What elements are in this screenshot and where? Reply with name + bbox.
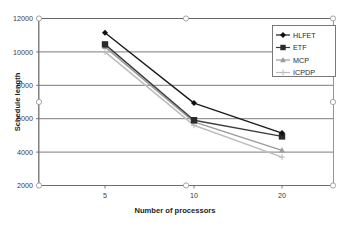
handle-top-right[interactable] xyxy=(330,16,335,21)
legend-marker-square-icon xyxy=(280,45,285,50)
x-tick-labels: 5 10 20 xyxy=(103,191,286,200)
handle-top-left[interactable] xyxy=(36,16,41,21)
handle-mid-right[interactable] xyxy=(330,99,335,104)
series-mcp xyxy=(102,44,285,153)
handle-bottom-left[interactable] xyxy=(36,183,41,188)
y-axis-title: Schedule length xyxy=(13,72,22,131)
chart-legend[interactable]: HLFET ETF MCP ICPDP xyxy=(273,26,336,78)
y-tick-label: 4000 xyxy=(17,148,33,157)
legend-label: HLFET xyxy=(293,31,316,40)
line-chart-canvas: 12000 10000 8000 6000 4000 2000 5 10 20 … xyxy=(0,0,352,226)
handle-bottom-center[interactable] xyxy=(183,183,188,188)
x-axis-title: Number of processors xyxy=(134,206,215,215)
x-tick-label: 5 xyxy=(103,191,107,200)
y-tick-label: 2000 xyxy=(17,181,33,190)
x-tick-label: 10 xyxy=(190,191,198,200)
y-tick-label: 10000 xyxy=(13,48,33,57)
handle-top-center[interactable] xyxy=(183,16,188,21)
x-tick-label: 20 xyxy=(278,191,286,200)
y-tick-label: 12000 xyxy=(13,14,33,23)
chart-figure: 12000 10000 8000 6000 4000 2000 5 10 20 … xyxy=(0,0,352,226)
handle-mid-left[interactable] xyxy=(36,99,41,104)
legend-label: MCP xyxy=(293,56,309,65)
legend-label: ETF xyxy=(293,43,307,52)
handle-bottom-right[interactable] xyxy=(330,183,335,188)
legend-label: ICPDP xyxy=(293,68,315,77)
